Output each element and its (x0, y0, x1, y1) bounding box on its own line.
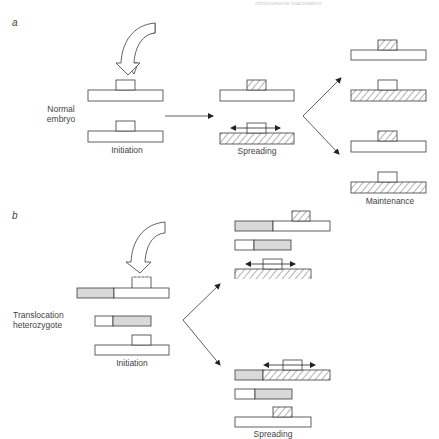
x-inactivation-diagram (0, 0, 439, 439)
stage-label-spreading-a: Spreading (225, 146, 289, 156)
panel-label-a: a (12, 18, 18, 28)
row-label-line2: embryo (40, 114, 82, 124)
chromosome-b-spread-low-1 (235, 360, 330, 380)
curved-arrow-icon-a (115, 23, 155, 75)
chromosome-a-init-2 (88, 121, 163, 142)
chromosome-b-spread-low-3 (235, 407, 311, 427)
stage-label-initiation-a: Initiation (95, 145, 159, 155)
chromosome-a-init-1 (88, 80, 163, 101)
chromosome-a-maint-1 (351, 40, 426, 60)
panel-label-b: b (12, 211, 18, 221)
chromosome-a-spread-2 (220, 123, 294, 144)
row-label-normal-embryo: Normal embryo (40, 104, 82, 124)
row-label-line1: Translocation (13, 310, 64, 320)
row-label-line2: heterozygote (13, 320, 64, 330)
arrow-down-right-icon (303, 116, 339, 154)
chromosome-a-maint-4 (351, 172, 426, 193)
chromosome-b-spread-up-2 (235, 240, 291, 250)
row-label-line1: Normal (40, 104, 82, 114)
arrow-down-right-icon-b (183, 320, 220, 365)
chromosome-b-spread-low-2 (235, 389, 292, 399)
stage-label-spreading-b: Spreading (241, 429, 305, 439)
chromosome-b-init-2 (95, 316, 151, 326)
arrow-up-right-icon (303, 78, 341, 116)
chromosome-b-init-3 (95, 335, 169, 355)
chromosome-b-spread-up-3 (235, 259, 311, 279)
curved-arrow-icon-b (126, 222, 165, 273)
stage-label-maintenance: Maintenance (355, 196, 425, 206)
chromosome-a-maint-3 (351, 131, 426, 152)
row-label-translocation-heterozygote: Translocation heterozygote (13, 310, 64, 330)
chromosome-b-spread-up-1 (235, 211, 330, 231)
arrow-up-right-icon-b (183, 284, 220, 320)
stage-label-initiation-b: Initiation (100, 358, 164, 368)
chromosome-a-maint-2 (351, 80, 426, 101)
chromosome-b-init-1 (77, 277, 169, 298)
chromosome-a-spread-1 (220, 80, 294, 101)
